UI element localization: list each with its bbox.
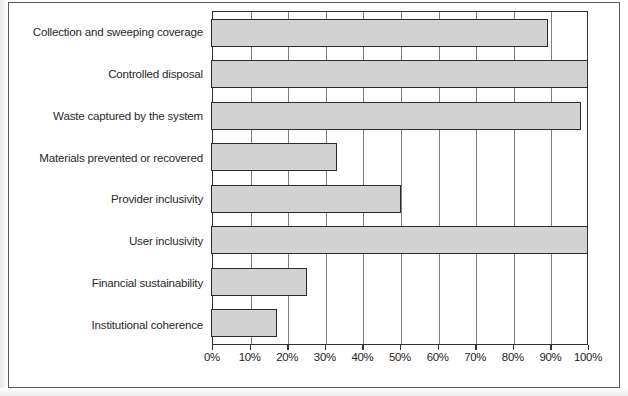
x-tick-mark: [400, 345, 401, 350]
x-tick-mark: [513, 345, 514, 350]
bar-row: [213, 303, 587, 345]
x-tick-label: 20%: [276, 351, 298, 363]
x-tick-label: 70%: [464, 351, 486, 363]
x-tick-mark: [550, 345, 551, 350]
scan-edge-shading-bottom: [0, 388, 628, 396]
x-tick-label: 60%: [427, 351, 449, 363]
bar: [211, 226, 587, 254]
category-label: Waste captured by the system: [10, 95, 210, 137]
x-tick-label: 100%: [574, 351, 602, 363]
x-tick-label: 30%: [314, 351, 336, 363]
x-tick-mark: [212, 345, 213, 350]
bar: [211, 268, 307, 296]
bar-row: [213, 12, 587, 54]
plot-area: [212, 11, 588, 345]
bar-row: [213, 54, 587, 96]
scan-edge-shading-left: [0, 0, 8, 396]
category-label: Controlled disposal: [10, 53, 210, 95]
x-axis: 0%10%20%30%40%50%60%70%80%90%100%: [212, 345, 588, 371]
bar-row: [213, 261, 587, 303]
bar: [211, 19, 547, 47]
bar-series: [213, 12, 587, 344]
bar-row: [213, 220, 587, 262]
x-tick-mark: [438, 345, 439, 350]
x-tick-mark: [588, 345, 589, 350]
x-tick-mark: [325, 345, 326, 350]
figure-container: Collection and sweeping coverageControll…: [0, 0, 628, 396]
x-tick-label: 10%: [239, 351, 261, 363]
bar: [211, 60, 587, 88]
bar-row: [213, 137, 587, 179]
category-label: Institutional coherence: [10, 303, 210, 345]
x-tick-label: 50%: [389, 351, 411, 363]
x-tick-label: 0%: [204, 351, 220, 363]
x-tick-mark: [475, 345, 476, 350]
x-tick-mark: [362, 345, 363, 350]
bar: [211, 185, 401, 213]
category-label: Collection and sweeping coverage: [10, 11, 210, 53]
category-axis-labels: Collection and sweeping coverageControll…: [10, 11, 210, 345]
x-tick-label: 40%: [351, 351, 373, 363]
category-label: Provider inclusivity: [10, 178, 210, 220]
category-label: Materials prevented or recovered: [10, 136, 210, 178]
x-tick-mark: [287, 345, 288, 350]
category-label: Financial sustainability: [10, 262, 210, 304]
bar-row: [213, 95, 587, 137]
bar-row: [213, 178, 587, 220]
x-tick-mark: [250, 345, 251, 350]
category-label: User inclusivity: [10, 220, 210, 262]
bar: [211, 143, 337, 171]
bar: [211, 309, 277, 337]
bar: [211, 102, 581, 130]
x-tick-label: 90%: [539, 351, 561, 363]
x-tick-label: 80%: [502, 351, 524, 363]
